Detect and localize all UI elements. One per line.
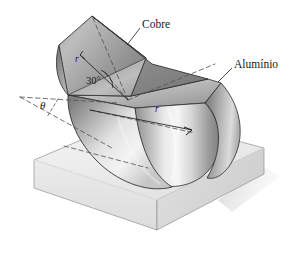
copper-body (56, 16, 208, 96)
label-radius-lower: r (155, 105, 159, 115)
label-angle-theta: θ (40, 100, 45, 111)
label-aluminum: Alumínio (234, 59, 278, 71)
mechanics-figure: Cobre Alumínio 30° θ r r (0, 0, 300, 261)
leader-copper (127, 28, 140, 45)
leader-aluminum (218, 68, 232, 82)
dashed-theta-close (47, 99, 58, 117)
label-angle-30: 30° (86, 76, 101, 87)
figure-illustration (0, 0, 300, 261)
label-radius-upper: r (75, 55, 79, 65)
label-copper: Cobre (142, 19, 170, 31)
